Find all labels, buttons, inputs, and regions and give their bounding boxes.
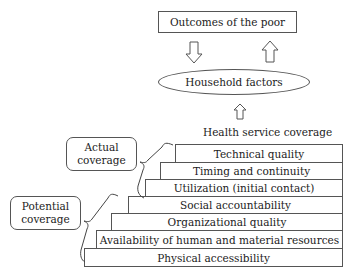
potential-coverage-brace-icon	[0, 0, 352, 280]
